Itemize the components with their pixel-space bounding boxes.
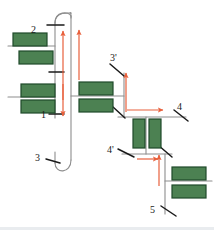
block-top-left-1	[13, 33, 47, 46]
channel-top-bend	[55, 13, 71, 23]
tick-node4-left	[113, 107, 125, 118]
figure-canvas: 2 1 3 3' 4 4' 5	[0, 0, 214, 230]
block-bottom-right-1	[172, 167, 206, 180]
label-4prime: 4'	[107, 145, 114, 155]
label-3: 3	[35, 153, 40, 163]
label-3prime: 3'	[110, 53, 117, 63]
block-vertical-left	[133, 119, 145, 148]
label-2: 2	[31, 25, 36, 35]
block-mid-center-1	[79, 82, 113, 95]
block-bottom-right-2	[172, 185, 206, 198]
block-mid-center-2	[79, 99, 113, 112]
label-1: 1	[41, 110, 46, 120]
label-5: 5	[150, 205, 155, 215]
tick-3	[46, 159, 60, 163]
block-top-left-2	[19, 51, 53, 64]
block-vertical-right	[149, 119, 161, 148]
tick-3prime	[110, 64, 124, 76]
block-mid-left-1	[21, 84, 55, 97]
bottom-page-edge	[0, 227, 214, 230]
terminator-ticks	[46, 25, 188, 216]
channel-top-arc-left	[55, 13, 71, 23]
label-4: 4	[177, 102, 182, 112]
tick-5	[161, 206, 176, 216]
block-mid-left-2	[21, 100, 55, 113]
tick-4prime	[118, 149, 134, 157]
